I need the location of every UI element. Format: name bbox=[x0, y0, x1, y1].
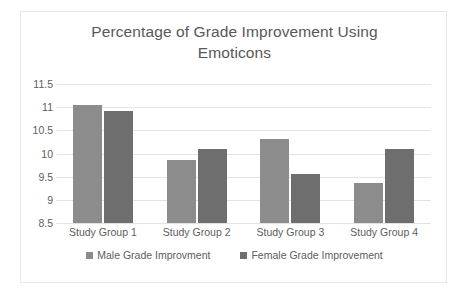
legend-item-label: Male Grade Improvment bbox=[97, 249, 210, 261]
x-axis-tick-label: Study Group 3 bbox=[244, 226, 338, 238]
chart-title: Percentage of Grade Improvement Using Em… bbox=[21, 21, 448, 63]
y-axis-tick-label: 11.5 bbox=[21, 78, 53, 90]
gridline bbox=[56, 223, 431, 224]
legend-swatch-icon bbox=[240, 252, 247, 259]
bar[interactable] bbox=[291, 174, 320, 223]
y-axis-tick-label: 10.5 bbox=[21, 124, 53, 136]
bar[interactable] bbox=[104, 111, 133, 223]
y-axis-tick-label: 10 bbox=[21, 148, 53, 160]
x-axis-tick-label: Study Group 1 bbox=[56, 226, 150, 238]
plot-area bbox=[56, 84, 431, 223]
y-axis-tick-label: 9.5 bbox=[21, 171, 53, 183]
y-axis-tick-label: 8.5 bbox=[21, 217, 53, 229]
legend-item[interactable]: Female Grade Improvement bbox=[240, 249, 382, 261]
bar-group bbox=[337, 84, 431, 223]
bar[interactable] bbox=[354, 183, 383, 223]
bar[interactable] bbox=[385, 149, 414, 223]
bar[interactable] bbox=[260, 139, 289, 223]
x-axis-tick-label: Study Group 2 bbox=[150, 226, 244, 238]
bar[interactable] bbox=[73, 105, 102, 223]
x-axis: Study Group 1Study Group 2Study Group 3S… bbox=[56, 226, 431, 244]
chart-title-line-2: Emoticons bbox=[21, 42, 448, 63]
legend-item-label: Female Grade Improvement bbox=[251, 249, 382, 261]
y-axis-tick-label: 11 bbox=[21, 101, 53, 113]
chart-container: Percentage of Grade Improvement Using Em… bbox=[20, 11, 447, 283]
x-axis-tick-label: Study Group 4 bbox=[337, 226, 431, 238]
bar-group bbox=[150, 84, 244, 223]
chart-title-line-1: Percentage of Grade Improvement Using bbox=[21, 21, 448, 42]
bar-group bbox=[56, 84, 150, 223]
bar-group bbox=[244, 84, 338, 223]
bar[interactable] bbox=[167, 160, 196, 223]
legend-item[interactable]: Male Grade Improvment bbox=[86, 249, 210, 261]
y-axis: 11.51110.5109.598.5 bbox=[21, 84, 53, 223]
y-axis-tick-label: 9 bbox=[21, 194, 53, 206]
bar[interactable] bbox=[198, 149, 227, 223]
chart-legend: Male Grade ImprovmentFemale Grade Improv… bbox=[21, 249, 448, 261]
legend-swatch-icon bbox=[86, 252, 93, 259]
